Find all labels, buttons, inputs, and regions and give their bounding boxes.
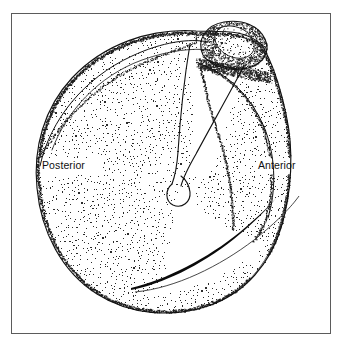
label-anterior: Anterior [258,160,296,171]
label-posterior: Posterior [42,160,85,171]
figure-container: Posterior Anterior [0,0,342,346]
figure-border [11,13,331,334]
